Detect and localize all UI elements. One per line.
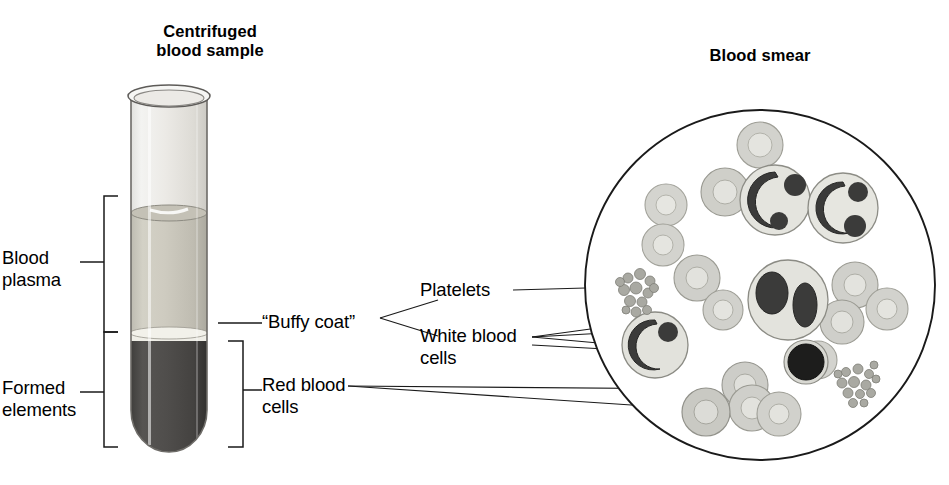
label-blood-plasma-line2: plasma — [2, 269, 61, 291]
right-bracket-red-cells — [218, 323, 262, 447]
label-red-blood-cells: Red blood cells — [262, 374, 345, 418]
red-blood-cell — [642, 224, 684, 266]
white-blood-cell — [748, 260, 828, 340]
white-blood-cell — [784, 340, 828, 384]
label-formed-elements-line1: Formed — [2, 377, 76, 399]
label-white-blood-cells: White blood cells — [420, 325, 517, 369]
white-blood-cell — [740, 165, 810, 235]
label-red-blood-cells-line2: cells — [262, 396, 345, 418]
blood-diagram: Centrifuged blood sample Blood smear — [0, 0, 949, 485]
tube-rim-inner — [134, 90, 204, 106]
tube-contents — [128, 92, 210, 456]
label-formed-elements: Formed elements — [2, 377, 76, 421]
label-formed-elements-line2: elements — [2, 399, 76, 421]
label-buffy-coat-text: “Buffy coat” — [262, 311, 355, 332]
left-brackets — [80, 196, 118, 447]
red-blood-cell — [703, 290, 743, 330]
red-blood-cell — [645, 184, 687, 226]
label-blood-plasma: Blood plasma — [2, 247, 61, 291]
label-red-blood-cells-line1: Red blood — [262, 374, 345, 396]
label-blood-plasma-line1: Blood — [2, 247, 61, 269]
glass-highlight — [148, 100, 151, 445]
red-blood-cell — [737, 122, 783, 168]
glass-highlight-right — [196, 100, 198, 440]
buffy-to-wbc-upper — [380, 300, 438, 318]
label-white-blood-cells-line1: White blood — [420, 325, 517, 347]
bracket-formed-elements — [104, 332, 118, 447]
bracket-rbc — [228, 341, 243, 447]
red-blood-cell — [757, 392, 801, 436]
blood-smear-graphic — [585, 110, 935, 460]
red-blood-cell — [682, 388, 730, 436]
red-blood-cell — [866, 288, 908, 330]
white-blood-cell — [622, 312, 688, 378]
bracket-blood-plasma — [104, 196, 118, 332]
label-white-blood-cells-line2: cells — [420, 347, 517, 369]
label-platelets-text: Platelets — [420, 279, 490, 300]
tube-graphic — [0, 0, 949, 485]
label-platelets: Platelets — [420, 279, 490, 301]
white-blood-cell — [808, 173, 878, 243]
label-buffy-coat: “Buffy coat” — [262, 311, 355, 333]
